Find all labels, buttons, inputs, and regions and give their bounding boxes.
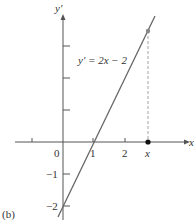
origin-label: 0 bbox=[54, 147, 60, 159]
x-point-label: x bbox=[144, 147, 150, 159]
x-point bbox=[145, 139, 150, 144]
chart: y′ x y′ = 2x − 2 0 1 2 x −1 −2 (b) bbox=[0, 0, 196, 222]
function-line bbox=[58, 16, 155, 217]
x-tick-label-2: 2 bbox=[122, 147, 128, 159]
y-tick-label-m1: −1 bbox=[46, 168, 58, 180]
panel-label: (b) bbox=[2, 208, 15, 221]
x-axis-label: x bbox=[188, 136, 194, 148]
x-tick-label-1: 1 bbox=[90, 147, 96, 159]
equation-label: y′ = 2x − 2 bbox=[77, 54, 128, 66]
curve-point bbox=[146, 29, 150, 33]
y-axis-label: y′ bbox=[54, 2, 63, 14]
y-axis-arrow-icon bbox=[61, 14, 66, 20]
y-tick-label-m2: −2 bbox=[46, 200, 58, 212]
